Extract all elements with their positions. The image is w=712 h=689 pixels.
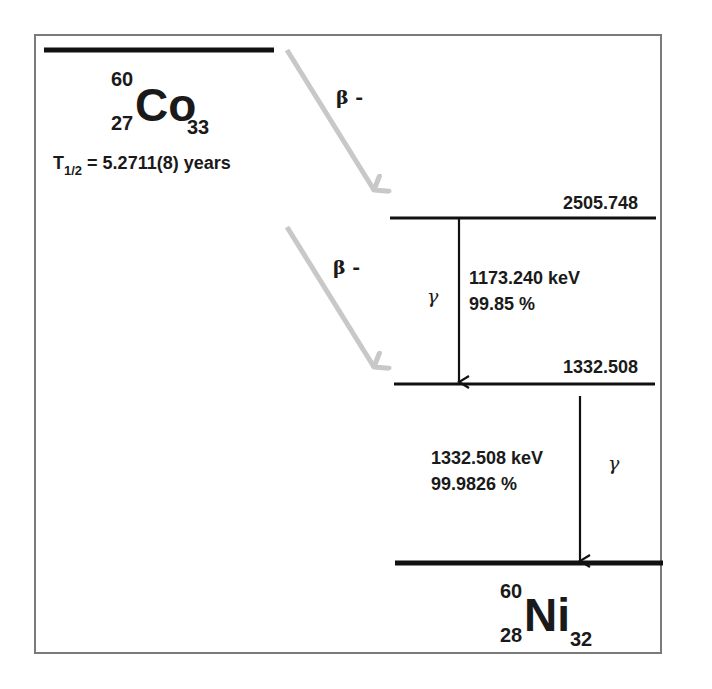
beta-label-2: β - [333,256,360,278]
daughter-atomic-number: 28 [500,624,522,647]
gamma-symbol-2: γ [608,452,619,474]
half-life-subscript: 1/2 [64,163,82,178]
gamma-1-energy: 1173.240 keV [469,265,580,291]
beta-arrow-1 [287,50,374,190]
half-life-symbol: T [53,153,64,173]
daughter-mass-number: 60 [500,580,522,603]
half-life: T1/2 = 5.2711(8) years [53,153,231,178]
level-energy-2505: 2505.748 [563,193,638,214]
gamma-symbol-1: γ [427,285,438,307]
half-life-value: = 5.2711(8) years [87,153,231,173]
gamma-1-details: 1173.240 keV 99.85 % [469,265,580,317]
parent-nuclide: 60 27 Co 33 [111,68,241,138]
beta-arrow-2 [287,227,374,367]
gamma-2-energy: 1332.508 keV [431,445,543,471]
daughter-symbol: Ni [524,592,570,638]
parent-neutron-number: 33 [187,116,209,139]
beta-label-1: β - [336,86,363,108]
parent-mass-number: 60 [111,68,133,91]
gamma-1-intensity: 99.85 % [469,291,580,317]
daughter-neutron-number: 32 [570,628,592,651]
parent-atomic-number: 27 [111,112,133,135]
gamma-2-intensity: 99.9826 % [431,471,543,497]
daughter-nuclide: 60 28 Ni 32 [500,580,620,650]
level-energy-1332: 1332.508 [563,357,638,378]
gamma-2-details: 1332.508 keV 99.9826 % [431,445,543,497]
